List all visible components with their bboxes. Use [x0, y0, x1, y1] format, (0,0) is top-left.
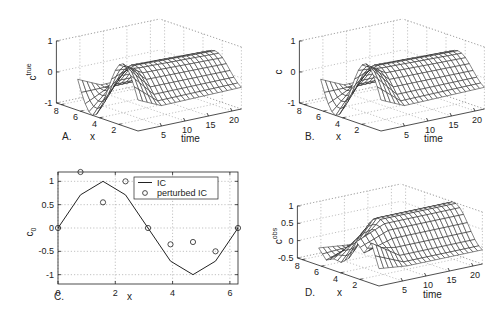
x-axis-label: x: [90, 131, 95, 142]
x-axis-label: x: [127, 291, 132, 302]
z-tick-label: 1: [47, 36, 52, 46]
panel-label: A.: [62, 131, 71, 142]
x-tick-label: 2: [113, 288, 118, 298]
time-tick-label: 20: [472, 115, 482, 125]
panel-c-line-plot: 0246-1-0.500.51ICperturbed ICC.xc0: [24, 169, 241, 302]
time-tick-label: 20: [229, 115, 239, 125]
panel-label: C.: [54, 291, 64, 302]
y-tick-label: 1: [49, 176, 54, 186]
x-tick-label: 8: [297, 106, 302, 116]
time-axis-label: time: [181, 133, 200, 144]
time-tick-label: 15: [205, 120, 215, 130]
z-axis-label: c: [273, 70, 284, 75]
z-axis-label: cobs: [271, 227, 284, 244]
time-axis-label: time: [423, 289, 442, 300]
time-tick-label: 15: [446, 275, 456, 285]
x-tick-label: 6: [73, 112, 78, 122]
z-tick-label: 1: [288, 201, 293, 211]
panel-d-surface-plot: -0.500.5124685101520D.xtimecobs: [271, 184, 482, 300]
z-tick-label: 0: [47, 67, 52, 77]
x-tick-label: 8: [54, 106, 59, 116]
z-tick-label: -1: [44, 98, 52, 108]
z-tick-label: 0.5: [281, 218, 294, 228]
x-tick-label: 4: [335, 119, 340, 129]
time-tick-label: 15: [448, 120, 458, 130]
x-tick-label: 6: [316, 112, 321, 122]
z-tick-label: 1: [290, 36, 295, 46]
time-tick-label: 5: [404, 130, 409, 140]
z-tick-label: 0: [288, 236, 293, 246]
x-tick-label: 8: [295, 261, 300, 271]
time-tick-label: 20: [470, 270, 480, 280]
legend-entry-perturbed-ic: perturbed IC: [157, 188, 208, 198]
x-tick-label: 4: [333, 274, 338, 284]
z-tick-label: 0: [290, 67, 295, 77]
x-tick-label: 2: [111, 125, 116, 135]
panel-label: D.: [305, 287, 315, 298]
y-tick-label: 0: [49, 223, 54, 233]
panel-a-surface-plot: -10124685101520A.xtimectrue: [25, 19, 241, 144]
x-axis-label: x: [336, 131, 341, 142]
z-tick-label: -1: [287, 98, 295, 108]
x-tick-label: 4: [92, 119, 97, 129]
perturbed-ic-marker: [168, 242, 173, 247]
legend-entry-ic: IC: [157, 178, 167, 188]
legend: ICperturbed IC: [134, 177, 218, 199]
panel-b-surface-plot: -10124685101520B.xtimec: [273, 19, 484, 144]
perturbed-ic-marker: [190, 239, 195, 244]
time-tick-label: 5: [161, 130, 166, 140]
x-tick-label: 6: [227, 288, 232, 298]
time-axis-label: time: [424, 133, 443, 144]
x-axis-label: x: [337, 287, 342, 298]
z-axis-label: ctrue: [25, 63, 38, 80]
time-tick-label: 5: [402, 285, 407, 295]
y-tick-label: -1: [46, 270, 54, 280]
x-tick-label: 4: [170, 288, 175, 298]
figure: -10124685101520A.xtimectrue -10124685101…: [0, 0, 503, 316]
x-tick-label: 6: [314, 267, 319, 277]
z-tick-label: -0.5: [278, 253, 294, 263]
x-tick-label: 2: [352, 280, 357, 290]
panel-label: B.: [305, 131, 314, 142]
perturbed-ic-marker: [100, 200, 105, 205]
y-tick-label: -0.5: [38, 246, 54, 256]
y-tick-label: 0.5: [41, 200, 54, 210]
x-tick-label: 2: [354, 125, 359, 135]
y-axis-label: c0: [24, 227, 37, 236]
